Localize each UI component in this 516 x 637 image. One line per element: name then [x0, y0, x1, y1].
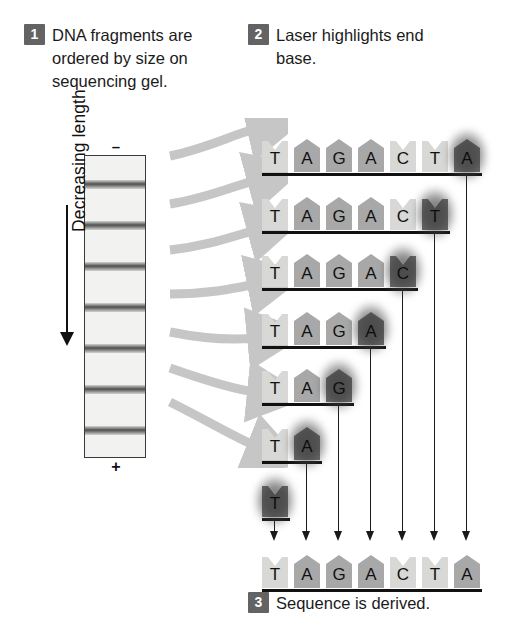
terminal-base: T: [262, 484, 288, 517]
base: T: [262, 555, 288, 588]
base: C: [390, 197, 416, 230]
base-letter: G: [332, 380, 345, 402]
base: G: [326, 312, 352, 345]
base-letter: A: [301, 208, 312, 230]
base-letter: T: [270, 208, 280, 230]
terminal-base: A: [294, 427, 320, 460]
terminal-base: C: [390, 254, 416, 287]
gel-band: [84, 180, 146, 189]
base-letter: A: [365, 208, 376, 230]
base: T: [422, 139, 448, 172]
terminal-base: A: [454, 139, 480, 172]
gel-band: [84, 262, 146, 271]
base: A: [294, 555, 320, 588]
base-letter: A: [301, 438, 312, 460]
base-letter: A: [461, 150, 472, 172]
base-letter: T: [270, 566, 280, 588]
decreasing-length-arrow-icon: [66, 205, 68, 333]
terminal-base: G: [326, 369, 352, 402]
fragment-row: T: [262, 473, 294, 517]
read-drop-arrow-icon: [402, 289, 403, 532]
fragment-row: TAGACT: [262, 186, 454, 230]
base: A: [294, 369, 320, 402]
base: A: [358, 139, 384, 172]
base-letter: G: [332, 265, 345, 287]
base: A: [294, 197, 320, 230]
base-letter: A: [301, 150, 312, 172]
step-3-text: Sequence is derived.: [276, 592, 430, 615]
base: A: [294, 139, 320, 172]
base-letter: A: [461, 566, 472, 588]
base: G: [326, 555, 352, 588]
base-letter: A: [301, 380, 312, 402]
base: T: [262, 369, 288, 402]
fragment-row: TAGAC: [262, 243, 422, 287]
base-letter: C: [397, 265, 409, 287]
base-letter: A: [301, 323, 312, 345]
base-letter: G: [332, 208, 345, 230]
gel-lane: [84, 155, 146, 458]
base-letter: C: [397, 150, 409, 172]
base: G: [326, 197, 352, 230]
gel-band: [84, 344, 146, 353]
base-letter: G: [332, 323, 345, 345]
step-3-badge: 3: [248, 592, 269, 613]
base: C: [390, 139, 416, 172]
gel-band: [84, 221, 146, 230]
base-letter: T: [270, 323, 280, 345]
base-letter: A: [301, 265, 312, 287]
base-letter: T: [270, 380, 280, 402]
step-1-badge: 1: [24, 24, 45, 45]
decreasing-length-label: Decreasing length: [69, 46, 90, 276]
base: A: [454, 555, 480, 588]
read-drop-arrow-icon: [466, 174, 467, 532]
gel-band: [84, 426, 146, 435]
fragment-row: TA: [262, 416, 326, 460]
base-letter: A: [301, 566, 312, 588]
base-letter: A: [365, 150, 376, 172]
base: T: [262, 312, 288, 345]
base: T: [262, 197, 288, 230]
fragment-row: TAGACTA: [262, 128, 486, 172]
gel-positive-electrode: +: [84, 459, 148, 475]
base-letter: A: [365, 265, 376, 287]
base: T: [422, 555, 448, 588]
base-letter: T: [430, 150, 440, 172]
fragment-row: TAGA: [262, 301, 390, 345]
base-letter: A: [365, 566, 376, 588]
read-drop-arrow-icon: [434, 232, 435, 533]
base: A: [358, 555, 384, 588]
base-letter: T: [270, 150, 280, 172]
base-letter: T: [430, 566, 440, 588]
base: A: [358, 197, 384, 230]
base-letter: G: [332, 150, 345, 172]
base: C: [390, 555, 416, 588]
base-letter: T: [270, 495, 280, 517]
terminal-base: A: [358, 312, 384, 345]
base: G: [326, 254, 352, 287]
base-letter: C: [397, 208, 409, 230]
read-drop-arrow-icon: [370, 347, 371, 533]
fragment-row: TAG: [262, 358, 358, 402]
gel-negative-electrode: –: [84, 140, 148, 155]
read-drop-arrow-icon: [306, 462, 307, 533]
base-letter: T: [430, 208, 440, 230]
base: G: [326, 139, 352, 172]
base: A: [294, 312, 320, 345]
step-3-caption: 3 Sequence is derived.: [248, 592, 498, 615]
base-letter: A: [365, 323, 376, 345]
step-1-caption: 1 DNA fragments are ordered by size on s…: [24, 24, 214, 93]
base-letter: G: [332, 566, 345, 588]
base: T: [262, 254, 288, 287]
base: T: [262, 427, 288, 460]
sequencing-gel: – +: [84, 140, 148, 475]
base: T: [262, 139, 288, 172]
diagram-canvas: 1 DNA fragments are ordered by size on s…: [0, 0, 516, 637]
step-2-caption: 2 Laser highlights end base.: [248, 24, 428, 70]
step-2-text: Laser highlights end base.: [276, 24, 428, 70]
base-letter: T: [270, 265, 280, 287]
gel-band: [84, 385, 146, 394]
base: A: [358, 254, 384, 287]
step-2-badge: 2: [248, 24, 269, 45]
base-letter: C: [397, 566, 409, 588]
